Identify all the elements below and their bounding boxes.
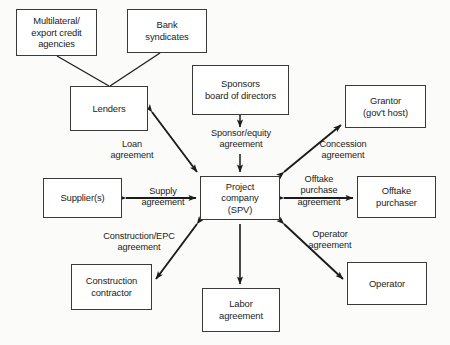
node-label: Supplier(s)	[60, 192, 104, 204]
edge-label-operator-agreement: Operator agreement	[295, 229, 365, 252]
node-labor-agreement[interactable]: Labor agreement	[202, 288, 280, 332]
node-grantor[interactable]: Grantor (gov't host)	[345, 85, 426, 128]
node-supplier[interactable]: Supplier(s)	[43, 178, 122, 218]
node-sponsors-board-of-directors[interactable]: Sponsors board of directors	[192, 65, 289, 115]
node-label: Multilateral/ export credit agencies	[31, 15, 81, 50]
edge-label-sponsor-equity-agreement: Sponsor/equity agreement	[200, 128, 282, 151]
node-label: Sponsors board of directors	[205, 78, 276, 101]
node-project-company-spv[interactable]: Project company (SPV)	[200, 176, 280, 220]
connector-bank-syndicates-to-lenders	[110, 53, 160, 86]
node-offtake-purchaser[interactable]: Offtake purchaser	[357, 176, 436, 218]
edge-label-construction-epc-agreement: Construction/EPC agreement	[89, 231, 189, 254]
node-label: Operator	[369, 278, 405, 290]
node-label: Bank syndicates	[145, 19, 188, 42]
connector-multilateral-to-lenders	[57, 56, 109, 86]
node-label: Offtake purchaser	[376, 185, 417, 208]
node-label: Construction contractor	[86, 275, 137, 298]
edge-label-loan-agreement: Loan agreement	[96, 139, 168, 162]
edge-label-offtake-purchase-agreement: Offtake purchase agreement	[286, 174, 352, 208]
node-lenders[interactable]: Lenders	[70, 86, 148, 131]
node-label: Grantor (gov't host)	[363, 95, 408, 118]
diagram-canvas: Multilateral/ export credit agencies Ban…	[0, 0, 450, 345]
node-label: Project company (SPV)	[221, 181, 258, 216]
node-label: Lenders	[92, 103, 125, 115]
edge-label-concession-agreement: Concession agreement	[307, 139, 379, 162]
node-operator[interactable]: Operator	[347, 262, 427, 305]
node-multilateral-export-credit-agencies[interactable]: Multilateral/ export credit agencies	[16, 9, 97, 56]
node-construction-contractor[interactable]: Construction contractor	[71, 264, 152, 310]
edge-label-supply-agreement: Supply agreement	[132, 186, 194, 209]
node-label: Labor agreement	[219, 298, 263, 321]
node-bank-syndicates[interactable]: Bank syndicates	[127, 9, 207, 53]
